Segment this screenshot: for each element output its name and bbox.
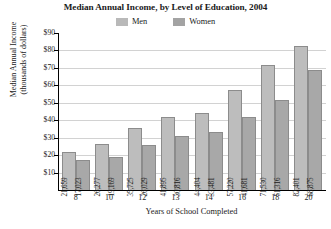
bar-men-10[interactable]: 26,277 xyxy=(95,144,109,190)
bar-men-8[interactable]: 21,659 xyxy=(62,152,76,190)
x-tick-label-13: 13 xyxy=(159,193,192,203)
bar-group: 26,27719,169 xyxy=(92,33,125,190)
bar-men-16[interactable]: 57,220 xyxy=(228,90,242,190)
y-tick-label: $30 xyxy=(3,134,55,142)
bar-women-10[interactable]: 19,169 xyxy=(109,157,123,190)
y-axis-ticks: $10$20$30$40$50$60$70$80$90 xyxy=(0,33,55,190)
y-tick-label: $50 xyxy=(3,99,55,107)
bar-women-18[interactable]: 51,316 xyxy=(275,100,289,190)
bar-women-14[interactable]: 33,481 xyxy=(209,132,223,190)
y-tick-label: $20 xyxy=(3,151,55,159)
x-tick-label-8: 8 xyxy=(59,193,92,203)
y-tick-label: $90 xyxy=(3,29,55,37)
legend-entry-women: Women xyxy=(173,17,215,26)
y-tick-label: $40 xyxy=(3,116,55,124)
bar-group: 57,22041,681 xyxy=(225,33,258,190)
y-tick-label: $80 xyxy=(3,46,55,54)
x-axis-title: Years of School Completed xyxy=(58,207,325,217)
x-tick-label-18: 18 xyxy=(259,193,292,203)
bar-men-14[interactable]: 44,404 xyxy=(195,113,209,190)
bar-women-8[interactable]: 17,023 xyxy=(76,160,90,190)
bar-group: 71,53051,316 xyxy=(259,33,292,190)
legend-label-men: Men xyxy=(132,17,147,26)
bar-women-16[interactable]: 41,681 xyxy=(242,117,256,190)
y-tick-label: $70 xyxy=(3,64,55,72)
bar-group: 41,89530,816 xyxy=(159,33,192,190)
bar-women-20[interactable]: 68,875 xyxy=(308,70,322,190)
bar-men-20[interactable]: 82,401 xyxy=(294,46,308,190)
legend-swatch-women-icon xyxy=(173,18,185,26)
income-by-education-bar-chart: Median Annual Income, by Level of Educat… xyxy=(0,0,331,229)
y-tick-label: $10 xyxy=(3,169,55,177)
bar-group: 35,72526,029 xyxy=(126,33,159,190)
bar-women-12[interactable]: 26,029 xyxy=(142,145,156,190)
y-tick-label: $60 xyxy=(3,81,55,89)
legend-swatch-men-icon xyxy=(116,18,128,26)
chart-legend: Men Women xyxy=(0,17,331,26)
x-axis-ticks: 810121314161820 xyxy=(59,193,325,203)
x-tick-label-12: 12 xyxy=(126,193,159,203)
bar-men-18[interactable]: 71,530 xyxy=(261,65,275,190)
x-tick-label-20: 20 xyxy=(292,193,325,203)
legend-label-women: Women xyxy=(189,17,215,26)
legend-entry-men: Men xyxy=(116,17,147,26)
bar-women-13[interactable]: 30,816 xyxy=(175,136,189,190)
x-tick-label-16: 16 xyxy=(225,193,258,203)
x-tick-label-10: 10 xyxy=(92,193,125,203)
bar-group: 44,40433,481 xyxy=(192,33,225,190)
x-tick-label-14: 14 xyxy=(192,193,225,203)
bar-group: 21,65917,023 xyxy=(59,33,92,190)
bars-layer: 21,65917,02326,27719,16935,72526,02941,8… xyxy=(59,33,325,190)
chart-title: Median Annual Income, by Level of Educat… xyxy=(0,2,331,13)
bar-group: 82,40168,875 xyxy=(292,33,325,190)
